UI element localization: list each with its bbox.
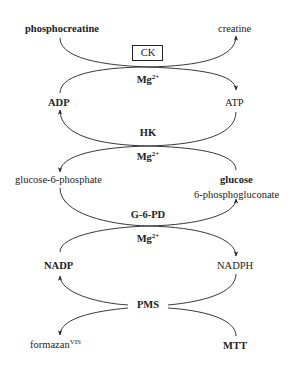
label-cofactor-3: Mg2+ [137,234,160,245]
label-6-phosphogluconate: 6-phosphogluconate [194,190,279,201]
label-atp: ATP [225,98,244,109]
arrow-mtt-to-pms [168,308,236,336]
formazan-base: formazan [30,339,70,350]
label-enzyme-hk: HK [140,128,156,139]
label-glucose: glucose [220,175,253,186]
reaction-diagram: phosphocreatine creatine CK Mg2+ ADP ATP… [0,0,291,372]
label-cofactor-2: Mg2+ [137,152,160,163]
label-creatine: creatine [218,24,251,35]
cofactor-base: Mg [137,233,152,244]
cofactor-base: Mg [137,74,152,85]
label-mtt: MTT [223,341,247,352]
cofactor-charge: 2+ [152,73,160,81]
arrow-pms-to-nadp [60,276,128,305]
label-mediator-pms: PMS [137,300,159,311]
arrow-nadph-to-pms [168,274,236,305]
label-formazan: formazanVIS [30,340,81,351]
cofactor-charge: 2+ [152,150,160,158]
cofactor-base: Mg [137,151,152,162]
cofactor-charge: 2+ [152,232,160,240]
label-enzyme-g6pd: G-6-PD [131,210,165,221]
label-cofactor-1: Mg2+ [137,75,160,86]
formazan-vis-superscript: VIS [70,338,81,346]
label-adp: ADP [48,98,70,109]
label-nadp: NADP [44,261,73,272]
label-phosphocreatine: phosphocreatine [25,24,99,35]
label-glucose-6-phosphate: glucose-6-phosphate [15,175,102,186]
arrow-pms-to-formazan [60,308,128,335]
label-enzyme-ck: CK [141,48,156,59]
label-nadph: NADPH [217,261,253,272]
